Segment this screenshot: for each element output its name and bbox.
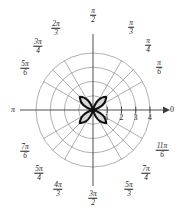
- angle-label-4pi-over-3: 4π 3: [53, 181, 62, 198]
- radial-tick-label-3: 3: [134, 113, 138, 122]
- polar-plot-figure: 0 π 6 π 4 π 3 π 2 2π 3 3π 4: [0, 0, 185, 213]
- angle-label-pi-over-4: π 4: [145, 37, 151, 54]
- rose-petal-45: [93, 97, 106, 110]
- rose-petal-135: [80, 97, 93, 110]
- angle-label-5pi-over-4: 5π 4: [34, 165, 43, 182]
- radial-tick-label-1: 1: [105, 113, 109, 122]
- polar-grid-canvas: [0, 0, 185, 213]
- angle-label-pi-over-2: π 2: [90, 7, 96, 24]
- radial-tick-label-4: 4: [148, 113, 152, 122]
- angle-label-5pi-over-3: 5π 3: [124, 181, 133, 198]
- angle-label-7pi-over-6: 7π 6: [20, 143, 29, 160]
- angle-label-11pi-over-6: 11π 6: [156, 142, 169, 159]
- angle-label-pi: π: [11, 106, 15, 114]
- polar-axis-arrowhead: [163, 107, 170, 114]
- angle-label-3pi-over-4: 3π 4: [33, 38, 42, 55]
- angle-label-pi-over-3: π 3: [128, 19, 134, 36]
- angle-label-3pi-over-2: 3π 2: [88, 190, 97, 207]
- rose-petal-225: [80, 110, 93, 123]
- angle-label-0: 0: [170, 106, 174, 114]
- angle-label-5pi-over-6: 5π 6: [20, 60, 29, 77]
- radial-tick-label-2: 2: [120, 113, 124, 122]
- angle-label-7pi-over-4: 7π 4: [141, 165, 150, 182]
- angle-label-2pi-over-3: 2π 3: [51, 20, 60, 37]
- angle-label-pi-over-6: π 6: [156, 59, 162, 76]
